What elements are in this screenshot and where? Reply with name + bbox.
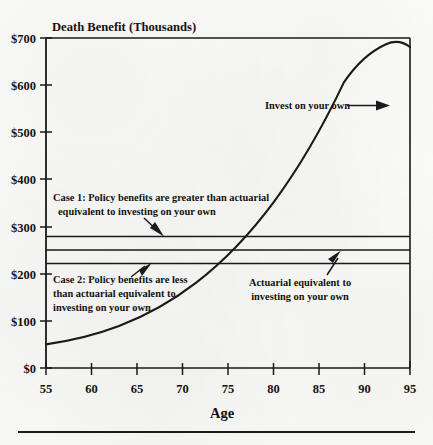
x-tick-label-55: 55: [40, 382, 53, 396]
annotation-case-1-line-1: Case 1: Policy benefits are greater than…: [53, 192, 269, 203]
annotation-actuarial-equivalent-line-1: Actuarial equivalent to: [249, 277, 351, 288]
x-tick-label-60: 60: [85, 382, 98, 396]
annotation-case-2-line-1: Case 2: Policy benefits are less: [53, 274, 188, 285]
chart-figure: Death Benefit (Thousands) $700 $600 $500…: [0, 0, 433, 445]
annotation-case-1-line-2: equivalent to investing on your own: [58, 206, 216, 217]
x-axis-title: Age: [210, 405, 235, 421]
y-axis-tick-labels: $700 $600 $500 $400 $300 $200 $100 $0: [11, 32, 36, 376]
annotation-actuarial-equivalent-line-2: investing on your own: [251, 291, 349, 302]
y-tick-label-0: $0: [24, 362, 37, 376]
annotation-actuarial-equivalent: Actuarial equivalent to investing on you…: [249, 251, 351, 303]
chart-title: Death Benefit (Thousands): [52, 20, 196, 34]
annotation-case-2: Case 2: Policy benefits are less than ac…: [53, 263, 188, 314]
y-tick-label-200: $200: [11, 268, 36, 282]
annotation-case-2-line-3: investing on your own: [53, 302, 151, 313]
plot-frame: [46, 38, 410, 368]
y-tick-label-300: $300: [11, 221, 36, 235]
y-tick-label-700: $700: [11, 32, 36, 46]
x-tick-label-75: 75: [222, 382, 235, 396]
x-tick-label-85: 85: [313, 382, 326, 396]
x-tick-label-70: 70: [176, 382, 189, 396]
y-tick-label-600: $600: [11, 79, 36, 93]
annotation-case-1: Case 1: Policy benefits are greater than…: [53, 192, 269, 237]
y-tick-label-400: $400: [11, 173, 36, 187]
arrow-head-icon: [376, 101, 390, 111]
arrow-head-icon: [328, 251, 341, 264]
death-benefit-chart: Death Benefit (Thousands) $700 $600 $500…: [0, 0, 433, 445]
x-tick-label-80: 80: [267, 382, 280, 396]
annotation-case-2-line-2: than actuarial equivalent to: [53, 288, 176, 299]
annotation-invest-on-your-own-label: Invest on your own: [265, 100, 350, 111]
x-tick-label-90: 90: [358, 382, 371, 396]
horizontal-benefit-lines: [46, 237, 410, 264]
annotation-invest-on-your-own: Invest on your own: [265, 100, 390, 111]
y-tick-label-100: $100: [11, 315, 36, 329]
x-tick-label-65: 65: [131, 382, 144, 396]
x-axis-tick-labels: 55 60 65 70 75 80 85 90 95: [40, 382, 417, 396]
x-tick-label-95: 95: [404, 382, 417, 396]
y-tick-label-500: $500: [11, 126, 36, 140]
arrow-head-icon: [150, 222, 164, 237]
